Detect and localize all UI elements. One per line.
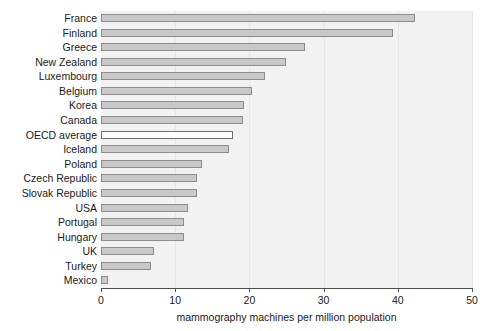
category-label: New Zealand — [0, 55, 97, 70]
category-label: Luxembourg — [0, 69, 97, 84]
bar — [101, 72, 265, 80]
category-label: Finland — [0, 26, 97, 41]
bar — [101, 14, 415, 22]
category-label: Portugal — [0, 215, 97, 230]
bar-row — [101, 26, 472, 41]
bar — [101, 145, 229, 153]
x-tick-label: 20 — [244, 294, 256, 306]
category-label: Turkey — [0, 259, 97, 274]
bar-row — [101, 273, 472, 288]
category-label: UK — [0, 244, 97, 259]
category-label: Czech Republic — [0, 171, 97, 186]
bar — [101, 276, 108, 284]
bar-row — [101, 55, 472, 70]
category-label: Slovak Republic — [0, 186, 97, 201]
bar — [101, 58, 286, 66]
bar-row — [101, 113, 472, 128]
x-axis-line — [101, 288, 472, 289]
bar — [101, 189, 197, 197]
x-tick-label: 30 — [318, 294, 330, 306]
category-label: Mexico — [0, 273, 97, 288]
bar-row — [101, 215, 472, 230]
category-label: Poland — [0, 157, 97, 172]
bar — [101, 233, 184, 241]
bar — [101, 174, 197, 182]
bar-row — [101, 186, 472, 201]
category-label: USA — [0, 201, 97, 216]
bar — [101, 87, 252, 95]
bar-row — [101, 171, 472, 186]
bar — [101, 131, 233, 139]
category-label: Iceland — [0, 142, 97, 157]
bar-chart-figure: FranceFinlandGreeceNew ZealandLuxembourg… — [0, 0, 500, 331]
category-label: OECD average — [0, 128, 97, 143]
bar — [101, 262, 151, 270]
category-label: Korea — [0, 98, 97, 113]
x-tick-mark — [101, 288, 102, 292]
x-axis-title: mammography machines per million populat… — [101, 311, 472, 323]
x-tick-mark — [249, 288, 250, 292]
bar-row — [101, 201, 472, 216]
bar — [101, 116, 243, 124]
bar — [101, 218, 184, 226]
category-axis-labels: FranceFinlandGreeceNew ZealandLuxembourg… — [0, 11, 97, 288]
x-tick-label: 40 — [392, 294, 404, 306]
bar-row — [101, 259, 472, 274]
bar-row — [101, 128, 472, 143]
bar-row — [101, 230, 472, 245]
category-label: Hungary — [0, 230, 97, 245]
category-label: Canada — [0, 113, 97, 128]
gridline — [472, 11, 473, 288]
bar-row — [101, 40, 472, 55]
x-tick-label: 0 — [98, 294, 104, 306]
bar-row — [101, 98, 472, 113]
bar-row — [101, 84, 472, 99]
bar-row — [101, 11, 472, 26]
bar-row — [101, 142, 472, 157]
x-tick-mark — [472, 288, 473, 292]
bar — [101, 247, 154, 255]
bar — [101, 29, 393, 37]
x-tick-mark — [324, 288, 325, 292]
x-tick-label: 10 — [169, 294, 181, 306]
bar — [101, 204, 188, 212]
bar — [101, 101, 244, 109]
category-label: Belgium — [0, 84, 97, 99]
x-tick-mark — [398, 288, 399, 292]
category-label: France — [0, 11, 97, 26]
bar-row — [101, 157, 472, 172]
bar-row — [101, 69, 472, 84]
category-label: Greece — [0, 40, 97, 55]
bar — [101, 43, 305, 51]
bar-row — [101, 244, 472, 259]
x-tick-label: 50 — [466, 294, 478, 306]
x-tick-mark — [175, 288, 176, 292]
bar — [101, 160, 202, 168]
bars-layer — [101, 11, 472, 288]
